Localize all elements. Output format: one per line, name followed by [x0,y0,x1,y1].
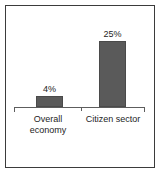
x-axis-label-line: Citizen sector [82,114,144,125]
plot-area: 4% 25% Overall economy Citizen sector [0,0,162,175]
x-axis-label-line: economy [18,125,78,136]
bar-citizen-sector [99,41,126,107]
x-axis-label-overall-economy: Overall economy [18,114,78,136]
bar-value-label-overall-economy: 4% [36,84,63,94]
x-axis-label-citizen-sector: Citizen sector [82,114,144,125]
x-axis-tick-right [144,107,145,112]
x-axis-tick-left [14,107,15,112]
chart-figure: 4% 25% Overall economy Citizen sector [0,0,162,175]
bar-value-label-citizen-sector: 25% [99,29,126,39]
x-axis-line [14,107,145,108]
x-axis-label-line: Overall [18,114,78,125]
bar-overall-economy [36,96,63,107]
x-axis-tick-center [81,107,82,111]
